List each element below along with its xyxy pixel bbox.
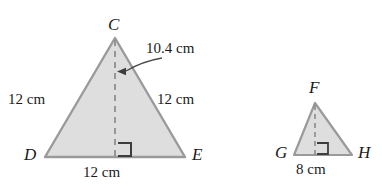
vertex-label-F: F	[309, 79, 319, 96]
triangle-FGH-shape	[294, 103, 352, 155]
vertex-label-E: E	[192, 146, 202, 163]
geometry-figure: C D E 12 cm 12 cm 12 cm 10.4 cm F G H 8 …	[0, 0, 382, 188]
label-side-CE-length: 12 cm	[157, 92, 194, 107]
label-side-DC-length: 12 cm	[8, 92, 45, 107]
label-base-GH-length: 8 cm	[296, 162, 326, 177]
vertex-label-C: C	[108, 16, 119, 33]
label-base-DE-length: 12 cm	[83, 165, 120, 180]
label-height-length: 10.4 cm	[146, 41, 194, 56]
vertex-label-D: D	[24, 146, 36, 163]
vertex-label-H: H	[358, 144, 370, 161]
vertex-label-G: G	[275, 144, 287, 161]
